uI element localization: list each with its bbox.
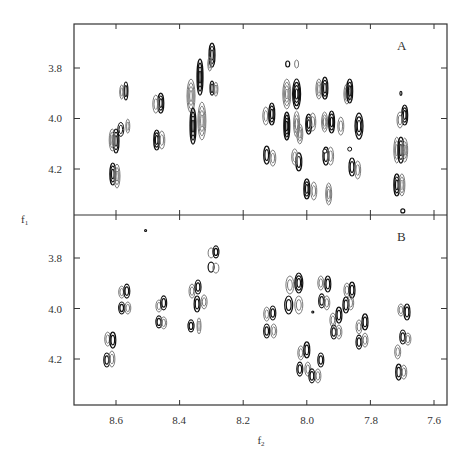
contour-peak xyxy=(337,310,341,320)
contour-peak xyxy=(162,299,166,307)
contour-peak xyxy=(286,121,288,130)
x-tick-label: 8.0 xyxy=(300,414,314,426)
y-axis-title: f1 xyxy=(21,213,29,227)
contour-peak xyxy=(288,280,293,291)
contour-peak xyxy=(331,316,335,324)
contour-peak xyxy=(357,323,361,331)
contour-peak xyxy=(286,300,291,311)
contour-peak xyxy=(345,286,349,294)
contour-peak xyxy=(189,322,193,329)
contour-peak xyxy=(190,90,193,101)
contour-peak xyxy=(120,289,124,296)
contour-peak xyxy=(323,118,326,127)
contour-peak xyxy=(312,186,316,197)
contour-peak xyxy=(320,297,324,305)
contour-peak xyxy=(299,349,303,357)
contour-peak xyxy=(298,365,302,373)
svg-text:f1: f1 xyxy=(21,213,29,227)
contour-peak xyxy=(215,85,217,93)
contour-peak xyxy=(198,321,200,331)
contour-peak xyxy=(326,279,330,289)
y-tick-label: 4.2 xyxy=(48,163,62,175)
contour-peak xyxy=(126,304,130,311)
contour-peak xyxy=(363,317,367,327)
contour-peak xyxy=(272,327,276,335)
y-tick-label: 3.8 xyxy=(48,252,62,264)
contour-peak xyxy=(403,111,406,120)
contour-peak xyxy=(310,372,314,380)
panel-a: A xyxy=(109,38,408,213)
contour-peak xyxy=(330,117,333,126)
contour-peak xyxy=(299,130,302,139)
y-tick-labels-a: 3.8 4.0 4.2 xyxy=(48,62,62,175)
contour-peak xyxy=(397,367,401,377)
contour-peak xyxy=(350,285,354,295)
y-tick-label: 4.2 xyxy=(48,353,62,365)
x-tick-label: 7.8 xyxy=(364,414,378,426)
contour-peak xyxy=(401,209,405,213)
contour-peak xyxy=(264,111,268,122)
contour-peak xyxy=(357,338,361,346)
contour-peak xyxy=(296,300,301,311)
x-tick-label: 7.6 xyxy=(427,414,441,426)
contour-peak xyxy=(121,88,123,96)
y-tick-labels-b: 3.8 4.0 4.2 xyxy=(48,252,62,365)
contour-peak xyxy=(295,60,299,68)
contour-peak xyxy=(396,180,399,189)
contour-peak xyxy=(119,125,123,133)
contour-peak xyxy=(339,121,343,132)
contour-peak xyxy=(356,165,360,176)
x-tick-labels: 8.6 8.4 8.2 8.0 7.8 7.6 xyxy=(109,414,441,426)
contour-peak xyxy=(325,299,329,307)
contour-peak xyxy=(106,335,110,343)
panel-a-label: A xyxy=(397,38,407,53)
contour-peak xyxy=(125,86,127,97)
contour-peak xyxy=(211,84,213,92)
contour-peak xyxy=(305,345,309,355)
x-tick-label: 8.4 xyxy=(172,414,186,426)
contour-peak xyxy=(265,310,269,318)
panel-b-peaks xyxy=(104,230,411,383)
contour-peak xyxy=(110,354,114,364)
contour-peak xyxy=(190,287,194,295)
contour-peak xyxy=(403,145,406,155)
contour-peak xyxy=(350,162,354,173)
y-tick-label: 4.0 xyxy=(48,303,62,315)
contour-peak xyxy=(125,287,129,295)
contour-peak xyxy=(116,171,119,181)
contour-peak xyxy=(349,299,353,307)
contour-peak xyxy=(111,335,115,345)
contour-peak xyxy=(271,309,275,317)
contour-peak xyxy=(399,306,403,313)
contour-peak xyxy=(286,61,290,67)
contour-peak xyxy=(319,356,323,364)
contour-peak xyxy=(402,368,406,376)
contour-peak xyxy=(271,153,275,163)
contour-peak xyxy=(271,109,274,118)
contour-peak xyxy=(312,311,314,313)
contour-peak xyxy=(327,189,330,198)
panel-b-label: B xyxy=(397,229,406,244)
contour-peak xyxy=(155,136,158,145)
contour-peak xyxy=(154,99,158,110)
contour-peak xyxy=(332,328,336,336)
nmr-contour-figure: A B 3.8 4.0 4.2 3.8 4.0 4.2 8.6 8.4 8.2 … xyxy=(0,0,466,457)
contour-peak xyxy=(401,180,404,189)
contour-peak xyxy=(337,328,341,336)
contour-peak xyxy=(398,115,402,125)
contour-peak xyxy=(405,307,409,317)
contour-peak xyxy=(323,149,327,153)
contour-peak xyxy=(196,283,200,291)
contour-peak xyxy=(120,304,124,311)
contour-peak xyxy=(306,185,309,194)
contour-peak xyxy=(297,279,300,288)
panel-b: B xyxy=(104,229,411,383)
contour-peak xyxy=(357,121,360,132)
x-axis-title-sub: 2 xyxy=(261,440,265,448)
contour-peak xyxy=(344,300,348,310)
contour-peak xyxy=(401,333,405,341)
plot-frame xyxy=(74,24,447,405)
svg-text:f2: f2 xyxy=(257,434,265,448)
contour-peak xyxy=(157,318,161,325)
contour-peak xyxy=(192,120,194,132)
